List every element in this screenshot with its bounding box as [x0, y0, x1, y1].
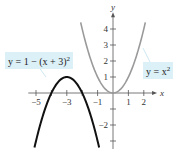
x-tick-label: −3: [62, 97, 72, 107]
curves: [34, 22, 145, 147]
y-tick-label: 4: [104, 24, 109, 34]
equation-label-parabola: y = x2: [143, 62, 173, 79]
x-tick-label: 2: [142, 97, 147, 107]
x-axis-label: x: [159, 88, 164, 98]
y-tick-label: 2: [104, 56, 109, 66]
y-axis-label: y: [110, 2, 115, 12]
y-tick-label: −2: [98, 120, 108, 130]
y-tick-label: 3: [104, 40, 109, 50]
x-axis-arrow-icon: [152, 91, 157, 95]
x-tick-label: 1: [126, 97, 131, 107]
x-tick-label: −5: [31, 97, 41, 107]
equation-label-shifted-parabola: y = 1 − (x + 3)2: [5, 52, 73, 69]
curve-shifted-parabola: [34, 77, 99, 148]
x-tick-label: −1: [93, 97, 103, 107]
leader-line-right: [143, 48, 150, 62]
y-axis-arrow-icon: [111, 12, 115, 17]
y-tick-label: 1: [104, 72, 109, 82]
